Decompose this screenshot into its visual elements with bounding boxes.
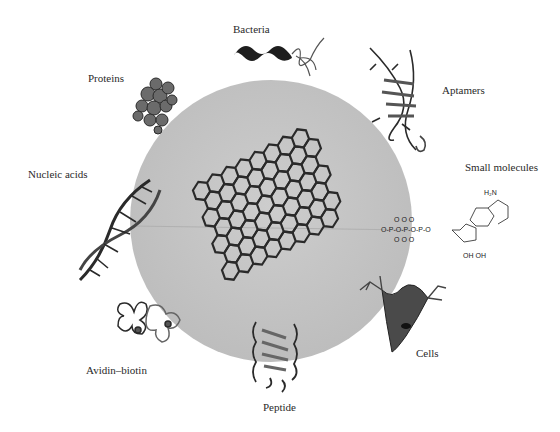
svg-text:O O O: O O O (394, 236, 415, 243)
hydroxyl-groups-text: OH OH (463, 252, 486, 259)
bacteria-icon (234, 38, 324, 76)
label-cells: Cells (416, 347, 439, 359)
diagram-graphics: O-P-O-P-O-P-O O O O O O O H₂N OH OH (0, 0, 560, 432)
label-nucleic-acids: Nucleic acids (28, 168, 88, 180)
svg-text:O O O: O O O (394, 216, 415, 223)
label-bacteria: Bacteria (233, 23, 270, 35)
label-small-molecules: Small molecules (465, 161, 538, 173)
svg-text:O-P-O-P-O-P-O: O-P-O-P-O-P-O (381, 226, 431, 233)
amine-group-text: H₂N (484, 189, 497, 196)
diagram-canvas: O-P-O-P-O-P-O O O O O O O H₂N OH OH (0, 0, 560, 432)
label-peptide: Peptide (263, 401, 296, 413)
label-aptamers: Aptamers (442, 84, 485, 96)
label-proteins: Proteins (88, 72, 124, 84)
label-avidin-biotin: Avidin–biotin (86, 364, 147, 376)
